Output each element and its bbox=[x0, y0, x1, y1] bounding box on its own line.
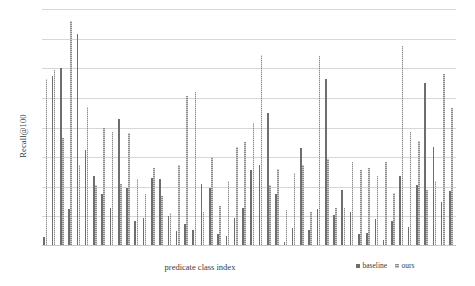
bar-ours bbox=[103, 128, 105, 247]
bar-ours bbox=[137, 179, 139, 246]
bar-ours bbox=[410, 132, 412, 246]
bar-ours bbox=[70, 21, 72, 246]
bar-group bbox=[133, 9, 141, 246]
bar-group bbox=[158, 9, 166, 246]
bar-ours bbox=[327, 159, 329, 246]
bar-group bbox=[324, 9, 332, 246]
bar-ours bbox=[451, 108, 453, 246]
x-axis-label: predicate class index bbox=[0, 262, 400, 272]
bar-group bbox=[340, 9, 348, 246]
bar-group bbox=[315, 9, 323, 246]
legend-swatch-icon bbox=[356, 264, 360, 268]
bar-group bbox=[423, 9, 431, 246]
bar-group bbox=[290, 9, 298, 246]
bar-group bbox=[174, 9, 182, 246]
bar-group bbox=[75, 9, 83, 246]
bar-group bbox=[398, 9, 406, 246]
bar-ours bbox=[277, 169, 279, 246]
bar-group bbox=[431, 9, 439, 246]
bar-ours bbox=[435, 181, 437, 246]
bar-group bbox=[381, 9, 389, 246]
bar-group bbox=[241, 9, 249, 246]
bar-group bbox=[332, 9, 340, 246]
bar-ours bbox=[385, 162, 387, 246]
legend-entry-baseline[interactable]: baseline bbox=[356, 261, 387, 270]
bar-group bbox=[249, 9, 257, 246]
bar-ours bbox=[112, 132, 114, 246]
bar-ours bbox=[253, 123, 255, 246]
bar-group bbox=[266, 9, 274, 246]
bar-ours bbox=[352, 162, 354, 246]
bar-ours bbox=[95, 185, 97, 246]
bar-ours bbox=[79, 165, 81, 246]
bar-group bbox=[373, 9, 381, 246]
bar-ours bbox=[344, 208, 346, 247]
bar-group bbox=[50, 9, 58, 246]
plot-area bbox=[42, 9, 456, 246]
bar-group bbox=[224, 9, 232, 246]
y-axis-label: Recall@100 bbox=[18, 114, 28, 157]
legend-swatch-icon bbox=[395, 264, 399, 268]
chart-figure: Recall@100 predicate class index baselin… bbox=[0, 0, 475, 286]
legend-label: ours bbox=[402, 261, 415, 270]
bar-ours bbox=[443, 74, 445, 246]
legend-entry-ours[interactable]: ours bbox=[395, 261, 414, 270]
x-axis-line bbox=[42, 245, 456, 246]
bar-ours bbox=[153, 168, 155, 247]
bar-ours bbox=[145, 194, 147, 246]
bar-ours bbox=[62, 138, 64, 246]
bar-group bbox=[274, 9, 282, 246]
bar-group bbox=[357, 9, 365, 246]
bar-group bbox=[141, 9, 149, 246]
bar-group bbox=[117, 9, 125, 246]
bar-ours bbox=[402, 46, 404, 246]
bar-ours bbox=[203, 212, 205, 246]
bar-group bbox=[83, 9, 91, 246]
bar-ours bbox=[161, 196, 163, 246]
bar-group bbox=[282, 9, 290, 246]
bar-ours bbox=[128, 133, 130, 246]
bar-ours bbox=[377, 176, 379, 246]
bar-ours bbox=[302, 165, 304, 246]
bar-ours bbox=[46, 79, 48, 246]
bar-group bbox=[150, 9, 158, 246]
bar-ours bbox=[54, 70, 56, 246]
bar-ours bbox=[244, 142, 246, 246]
bar-group bbox=[208, 9, 216, 246]
bar-ours bbox=[195, 92, 197, 246]
bar-ours bbox=[219, 206, 221, 246]
bar-ours bbox=[368, 168, 370, 247]
bar-group bbox=[406, 9, 414, 246]
bar-ours bbox=[269, 185, 271, 246]
bar-group bbox=[390, 9, 398, 246]
bar-ours bbox=[120, 184, 122, 246]
bar-group bbox=[125, 9, 133, 246]
bar-ours bbox=[286, 210, 288, 246]
bar-ours bbox=[294, 173, 296, 246]
bar-group bbox=[59, 9, 67, 246]
bar-group bbox=[348, 9, 356, 246]
chart-legend: baselineours bbox=[356, 261, 415, 270]
bar-group bbox=[216, 9, 224, 246]
bar-group bbox=[100, 9, 108, 246]
bar-group bbox=[183, 9, 191, 246]
bar-ours bbox=[178, 165, 180, 246]
bar-group bbox=[299, 9, 307, 246]
bar-group bbox=[166, 9, 174, 246]
bar-group bbox=[307, 9, 315, 246]
bar-ours bbox=[228, 181, 230, 246]
bar-ours bbox=[426, 190, 428, 246]
bar-group bbox=[191, 9, 199, 246]
bar-group bbox=[415, 9, 423, 246]
bar-group bbox=[232, 9, 240, 246]
bar-ours bbox=[418, 141, 420, 246]
bar-group bbox=[448, 9, 456, 246]
bar-ours bbox=[236, 147, 238, 246]
bar-ours bbox=[186, 96, 188, 246]
bar-group bbox=[365, 9, 373, 246]
bar-ours bbox=[170, 213, 172, 246]
bar-ours bbox=[310, 212, 312, 246]
bar-group bbox=[439, 9, 447, 246]
legend-label: baseline bbox=[363, 261, 388, 270]
bar-group bbox=[199, 9, 207, 246]
